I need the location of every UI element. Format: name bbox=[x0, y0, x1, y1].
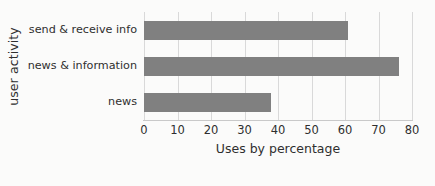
x-axis-tick-label: 50 bbox=[304, 123, 319, 137]
x-axis-title: Uses by percentage bbox=[144, 141, 412, 156]
gridline bbox=[412, 12, 413, 120]
x-axis-tick-label: 80 bbox=[405, 123, 420, 137]
y-axis-tick-labels: send & receive infonews & informationnew… bbox=[24, 12, 141, 120]
x-axis-tick-labels: 01020304050607080 bbox=[144, 123, 412, 139]
x-axis-tick-label: 10 bbox=[170, 123, 185, 137]
bar bbox=[144, 21, 348, 40]
y-axis-tick-label: send & receive info bbox=[29, 23, 137, 37]
x-axis-tick-label: 70 bbox=[371, 123, 386, 137]
bar bbox=[144, 93, 271, 112]
bar-chart: user activity send & receive infonews & … bbox=[0, 0, 435, 186]
x-axis-line bbox=[143, 120, 413, 121]
bar-series bbox=[144, 12, 412, 120]
plot-area bbox=[144, 12, 412, 120]
x-axis-tick-label: 30 bbox=[237, 123, 252, 137]
x-axis-tick-label: 0 bbox=[140, 123, 147, 137]
x-axis-tick-label: 40 bbox=[271, 123, 286, 137]
y-axis-title-text: user activity bbox=[6, 27, 21, 106]
y-axis-title: user activity bbox=[0, 0, 26, 132]
x-axis-tick-label: 60 bbox=[338, 123, 353, 137]
y-axis-tick-label: news & information bbox=[28, 59, 137, 73]
bar bbox=[144, 57, 399, 76]
x-axis-tick-label: 20 bbox=[204, 123, 219, 137]
y-axis-tick-label: news bbox=[108, 95, 137, 109]
